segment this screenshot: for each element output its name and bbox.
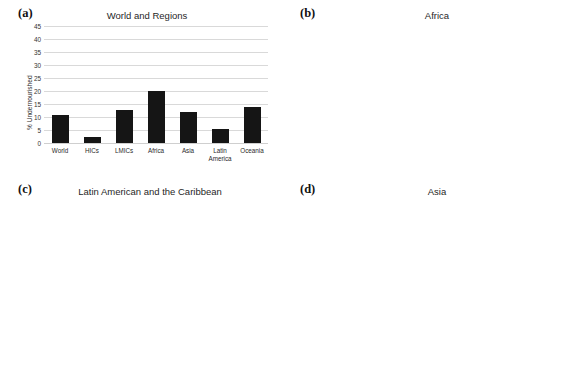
y-tick-label: 10 — [34, 114, 41, 121]
bar — [244, 107, 261, 143]
x-label-slot: Asia — [172, 144, 204, 163]
bar-slot — [172, 26, 204, 143]
x-label-slot: World — [44, 144, 76, 163]
panel-a-plot-area: 454035302520151050 — [44, 26, 268, 143]
panel-d-title: Asia — [342, 186, 532, 197]
bar-slot — [140, 26, 172, 143]
bar-slot — [44, 26, 76, 143]
bar — [180, 112, 197, 143]
bar-slot — [108, 26, 140, 143]
x-label-slot: LMICs — [108, 144, 140, 163]
y-tick-label: 5 — [37, 127, 41, 134]
panel-a-title: World and Regions — [52, 10, 242, 21]
y-tick-label: 20 — [34, 88, 41, 95]
panel-c: (c) Latin American and the Caribbean % U… — [0, 176, 282, 369]
bar — [116, 110, 133, 143]
y-tick-label: 0 — [37, 140, 41, 147]
bar-slot — [76, 26, 108, 143]
panel-b-tag: (b) — [300, 6, 315, 21]
bar-slot — [236, 26, 268, 143]
panel-a-tag: (a) — [18, 6, 33, 21]
y-tick-label: 15 — [34, 100, 41, 107]
x-tick-label: HICs — [76, 144, 108, 155]
y-tick-label: 45 — [34, 23, 41, 30]
panel-c-tag: (c) — [18, 182, 32, 197]
figure-undernourishment-panels: (a) World and Regions % Undernourished 4… — [0, 0, 563, 369]
x-label-slot: LatinAmerica — [204, 144, 236, 163]
x-label-slot: HICs — [76, 144, 108, 163]
panel-a: (a) World and Regions % Undernourished 4… — [0, 0, 282, 185]
panel-b-title: Africa — [342, 10, 532, 21]
x-label-slot: Africa — [140, 144, 172, 163]
panel-b: (b) Africa % Undernourished 454035302520… — [282, 0, 563, 185]
x-tick-label: Africa — [140, 144, 172, 155]
y-tick-label: 25 — [34, 75, 41, 82]
x-label-slot: Oceania — [236, 144, 268, 163]
bar — [148, 91, 165, 143]
x-tick-label: Oceania — [236, 144, 268, 155]
x-tick-label: LatinAmerica — [204, 144, 236, 163]
y-tick-label: 30 — [34, 61, 41, 68]
y-tick-label: 35 — [34, 49, 41, 56]
y-tick-label: 40 — [34, 36, 41, 43]
x-tick-label: Asia — [172, 144, 204, 155]
panel-d-tag: (d) — [300, 182, 315, 197]
panel-a-bars — [44, 26, 268, 143]
panel-c-title: Latin American and the Caribbean — [40, 186, 260, 197]
bar — [52, 115, 69, 143]
panel-d: (d) Asia % Undernourished 45403530252015… — [282, 176, 563, 369]
x-tick-label: World — [44, 144, 76, 155]
bar — [84, 137, 101, 143]
panel-a-x-tick-labels: WorldHICsLMICsAfricaAsiaLatinAmericaOcea… — [44, 144, 268, 163]
panel-a-y-axis-label: % Undernourished — [26, 75, 33, 130]
bar-slot — [204, 26, 236, 143]
bar — [212, 129, 229, 143]
x-tick-label: LMICs — [108, 144, 140, 155]
